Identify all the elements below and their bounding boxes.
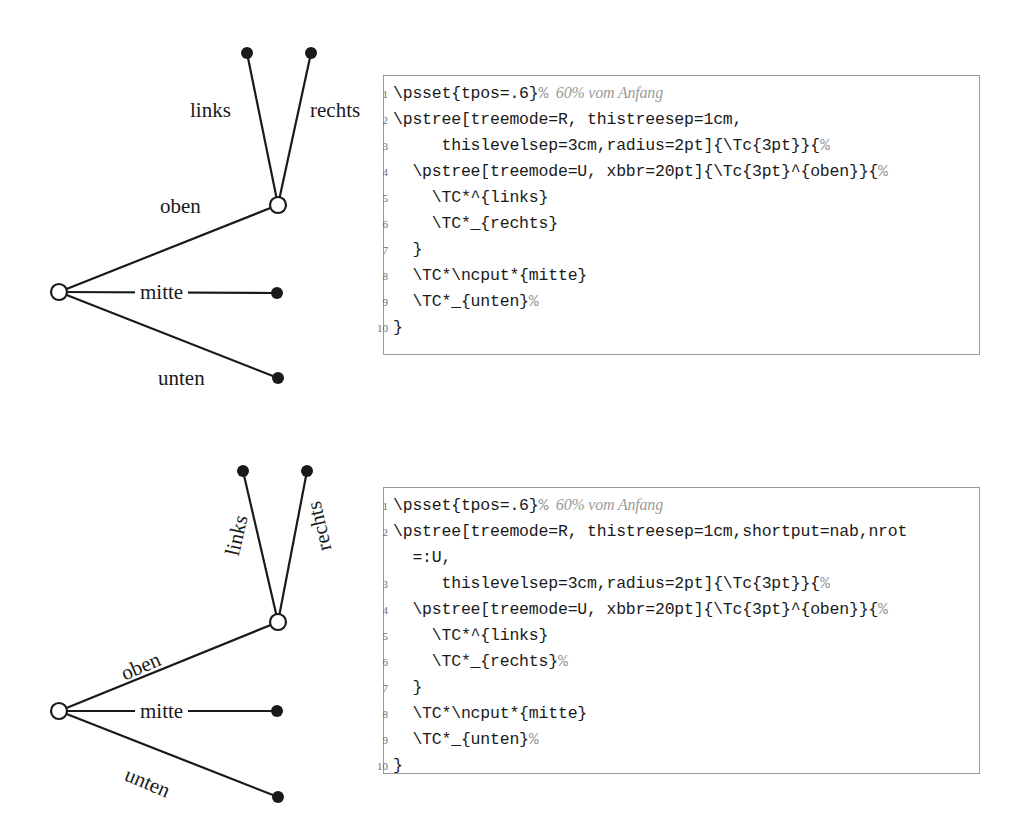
edge-links xyxy=(243,471,278,622)
line-number: 7 xyxy=(375,682,393,694)
code-line-text: \psset{tpos=.6}% 60% vom Anfang xyxy=(393,496,663,515)
line-number: 10 xyxy=(375,760,393,772)
code-line-text: \TC*_{unten}% xyxy=(393,730,539,749)
code-line-text: thislevelsep=3cm,radius=2pt]{\Tc{3pt}}{% xyxy=(393,574,830,593)
edge-label-mitte: mitte xyxy=(135,701,188,722)
code-line-text: } xyxy=(393,678,422,697)
code-line: 8 \TC*\ncput*{mitte} xyxy=(375,704,974,730)
code-token: \TC*_{unten} xyxy=(393,730,529,749)
code-token: \pstree[treemode=R, thistreesep=1cm,shor… xyxy=(393,522,907,541)
unten-leaf xyxy=(272,791,284,803)
code-line-text: =:U, xyxy=(393,548,451,567)
code-line-text: \TC*\ncput*{mitte} xyxy=(393,704,587,723)
code-line: 10} xyxy=(375,756,974,782)
line-number: 5 xyxy=(375,630,393,642)
code-line: 4 \pstree[treemode=U, xbbr=20pt]{\Tc{3pt… xyxy=(375,600,974,626)
comment-token: % xyxy=(529,730,539,749)
code-token: \TC*_{rechts} xyxy=(393,652,558,671)
code-line: 2\pstree[treemode=R, thistreesep=1cm,sho… xyxy=(375,522,974,548)
comment-token: % xyxy=(558,652,568,671)
code-line-text: \TC*_{rechts}% xyxy=(393,652,568,671)
code-token: } xyxy=(393,678,422,697)
code-line: 7 } xyxy=(375,678,974,704)
line-number: 9 xyxy=(375,734,393,746)
links-leaf xyxy=(237,465,249,477)
code-line-text: } xyxy=(393,756,403,775)
code-line: 5 \TC*^{links} xyxy=(375,626,974,652)
rechts-leaf xyxy=(301,465,313,477)
edge-rechts xyxy=(278,471,307,622)
code-token: } xyxy=(393,756,403,775)
comment-token: 60% vom Anfang xyxy=(548,496,663,513)
edge-oben xyxy=(59,622,278,711)
code-listing-bottom: 1\psset{tpos=.6}% 60% vom Anfang2\pstree… xyxy=(365,487,980,774)
line-number: 1 xyxy=(375,500,393,512)
code-token: \psset{tpos=.6} xyxy=(393,496,539,515)
code-token: \TC*^{links} xyxy=(393,626,548,645)
listing-lines: 1\psset{tpos=.6}% 60% vom Anfang2\pstree… xyxy=(365,487,980,791)
code-line: 9 \TC*_{unten}% xyxy=(375,730,974,756)
junction-node xyxy=(270,614,286,630)
line-number: 8 xyxy=(375,708,393,720)
code-line-text: \TC*^{links} xyxy=(393,626,548,645)
figure-bottom: linksrechtsobenmitteunten 1\psset{tpos=.… xyxy=(0,0,1016,824)
code-line: 6 \TC*_{rechts}% xyxy=(375,652,974,678)
line-number: 6 xyxy=(375,656,393,668)
code-line: 1\psset{tpos=.6}% 60% vom Anfang xyxy=(375,496,974,522)
root-node xyxy=(51,703,67,719)
line-number: 3 xyxy=(375,578,393,590)
code-token: thislevelsep=3cm,radius=2pt]{\Tc{3pt}}{ xyxy=(393,574,820,593)
code-line: =:U, xyxy=(375,548,974,574)
line-number: 2 xyxy=(375,526,393,538)
code-token: \pstree[treemode=U, xbbr=20pt]{\Tc{3pt}^… xyxy=(393,600,878,619)
line-number: 4 xyxy=(375,604,393,616)
code-token: \TC*\ncput*{mitte} xyxy=(393,704,587,723)
code-line: 3 thislevelsep=3cm,radius=2pt]{\Tc{3pt}}… xyxy=(375,574,974,600)
code-line-text: \pstree[treemode=U, xbbr=20pt]{\Tc{3pt}^… xyxy=(393,600,888,619)
code-token: =:U, xyxy=(393,548,451,567)
comment-token: % xyxy=(820,574,830,593)
code-line-text: \pstree[treemode=R, thistreesep=1cm,shor… xyxy=(393,522,907,541)
pstree-diagram-bottom xyxy=(0,0,380,824)
mitte-leaf xyxy=(271,705,283,717)
comment-token: % xyxy=(539,496,549,515)
comment-token: % xyxy=(878,600,888,619)
